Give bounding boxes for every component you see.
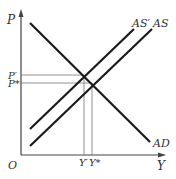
p-star-label: P*	[7, 78, 20, 89]
price-axis-arrow-icon	[19, 9, 24, 17]
as-prime-label: AS′	[131, 17, 150, 30]
as-curve	[30, 29, 152, 146]
output-axis-arrow-icon	[158, 153, 166, 158]
y-star-label: Y*	[89, 157, 101, 168]
origin-label: O	[8, 159, 17, 172]
y-prime-label: Y′	[79, 157, 89, 168]
price-axis-label: P	[6, 13, 16, 27]
as-ad-diagram: P Y O AS′ AS AD P′ P* Y′ Y*	[0, 0, 176, 179]
ad-label: AD	[152, 137, 170, 150]
ad-curve	[30, 23, 150, 142]
output-axis-label: Y	[157, 159, 166, 173]
as-prime-curve	[30, 29, 134, 129]
as-label: AS	[152, 17, 169, 30]
